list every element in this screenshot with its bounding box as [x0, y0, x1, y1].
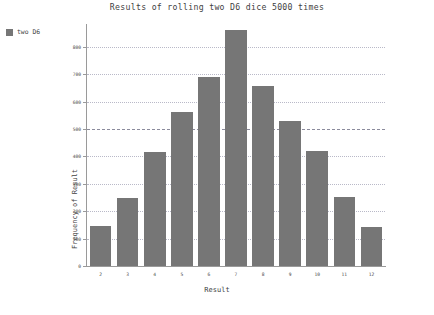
x-axis-label: Result: [0, 286, 434, 294]
x-tick-label-2: 2: [99, 272, 102, 277]
chart-figure: Results of rolling two D6 dice 5000 time…: [0, 0, 434, 315]
y-tick-label-600: 600: [73, 99, 81, 104]
x-tick-label-7: 7: [235, 272, 238, 277]
bar-8: [252, 86, 274, 266]
chart-title: Results of rolling two D6 dice 5000 time…: [0, 2, 434, 12]
y-tick-label-200: 200: [73, 209, 81, 214]
bar-11: [334, 197, 356, 266]
y-axis-ticks: 0100200300400500600700800: [0, 25, 86, 266]
bar-6: [198, 77, 220, 266]
bar-series-two-d6: [87, 25, 385, 266]
bar-12: [361, 227, 383, 266]
x-tick-label-4: 4: [153, 272, 156, 277]
bar-9: [279, 121, 301, 266]
x-tick-label-11: 11: [342, 272, 348, 277]
bar-10: [306, 151, 328, 266]
bar-7: [225, 30, 247, 266]
bar-2: [90, 226, 112, 266]
y-tick-label-0: 0: [78, 264, 81, 269]
bar-3: [117, 198, 139, 266]
x-tick-label-6: 6: [208, 272, 211, 277]
y-tick-label-300: 300: [73, 181, 81, 186]
y-tick-label-700: 700: [73, 72, 81, 77]
x-tick-label-3: 3: [126, 272, 129, 277]
y-tick-label-100: 100: [73, 236, 81, 241]
x-tick-label-9: 9: [289, 272, 292, 277]
x-tick-label-12: 12: [369, 272, 375, 277]
bar-5: [171, 112, 193, 266]
x-tick-label-5: 5: [180, 272, 183, 277]
x-axis-line: [86, 266, 386, 267]
y-tick-label-800: 800: [73, 44, 81, 49]
x-tick-label-10: 10: [314, 272, 320, 277]
bar-4: [144, 152, 166, 266]
y-tick-label-400: 400: [73, 154, 81, 159]
plot-area: [87, 25, 385, 266]
x-tick-label-8: 8: [262, 272, 265, 277]
y-tick-label-500: 500: [73, 127, 81, 132]
